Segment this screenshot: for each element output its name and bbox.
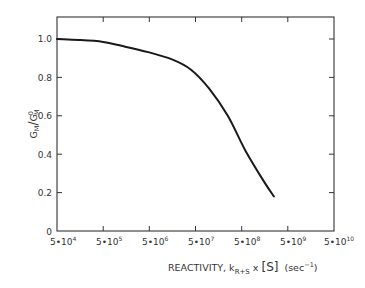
y-tick-labels: 0 0.2 0.4 0.6 0.8 1.0 bbox=[38, 34, 53, 236]
y-tick-label: 0 bbox=[46, 227, 52, 237]
y-tick-label: 1.0 bbox=[38, 34, 53, 44]
y-tick-label: 0.4 bbox=[38, 150, 53, 160]
x-axis-title: REACTIVITY, kR+S x [S](sec−1) bbox=[168, 260, 318, 276]
x-tick-label: 5•106 bbox=[142, 235, 169, 247]
chart: 0 0.2 0.4 0.6 0.8 1.0 5•104 5•105 5•106 … bbox=[0, 0, 365, 288]
x-tick-label: 5•109 bbox=[280, 235, 307, 247]
plot-frame bbox=[57, 17, 334, 231]
x-ticks bbox=[103, 17, 288, 231]
y-ticks bbox=[57, 39, 334, 193]
y-axis-title: GM/G0M bbox=[26, 109, 41, 138]
x-tick-label: 5•108 bbox=[234, 235, 261, 247]
x-tick-label: 5•107 bbox=[188, 235, 215, 247]
x-tick-label: 5•1010 bbox=[324, 235, 354, 247]
x-tick-label: 5•105 bbox=[96, 235, 123, 247]
y-tick-label: 0.2 bbox=[38, 188, 52, 198]
data-curve bbox=[57, 39, 274, 196]
x-tick-label: 5•104 bbox=[50, 235, 77, 247]
y-tick-label: 0.8 bbox=[38, 73, 53, 83]
x-tick-labels: 5•104 5•105 5•106 5•107 5•108 5•109 5•10… bbox=[50, 235, 354, 247]
